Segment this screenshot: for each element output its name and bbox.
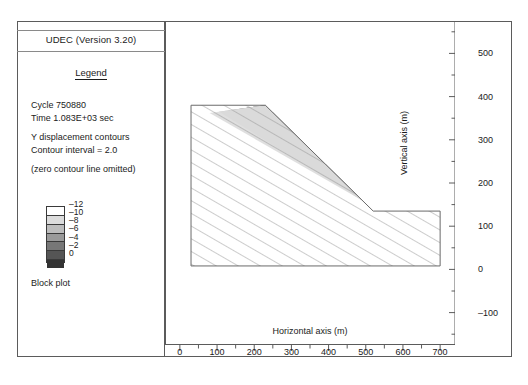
legend-heading-text: Legend <box>75 67 107 80</box>
title-rule-top <box>17 30 165 31</box>
contour-color-scale <box>46 206 65 263</box>
color-band--8 <box>47 224 64 233</box>
x-tick-0: 0 <box>177 347 182 357</box>
legend-heading: Legend <box>17 67 165 78</box>
color-band-0 <box>47 259 64 268</box>
scale-label: –8 <box>69 216 129 224</box>
y-tick-100: 100 <box>478 221 493 231</box>
contour-interval-label: Contour interval = 2.0 <box>31 144 165 157</box>
y-tick--100: –100 <box>478 308 498 318</box>
block-plot-label: Block plot <box>31 278 70 288</box>
contour-scale-labels: –12–10–8–6–4–20 <box>69 200 129 257</box>
scale-label: –6 <box>69 224 129 232</box>
x-axis-tick-labels: 0100200300400500600700 <box>165 347 455 359</box>
color-band--4 <box>47 241 64 250</box>
y-tick-400: 400 <box>478 92 493 102</box>
contour-type-label: Y displacement contours <box>31 131 165 144</box>
legend-panel: UDEC (Version 3.20) Legend Cycle 750880 … <box>17 21 165 357</box>
y-tick-500: 500 <box>478 48 493 58</box>
slope-model-figure <box>165 21 455 357</box>
app-title: UDEC (Version 3.20) <box>17 34 165 45</box>
scale-label: –4 <box>69 233 129 241</box>
zero-contour-note: (zero contour line omitted) <box>31 163 165 176</box>
x-axis-title: Horizontal axis (m) <box>165 326 455 336</box>
title-rule-bottom <box>17 51 165 52</box>
scale-label: 0 <box>69 249 129 257</box>
x-tick-600: 600 <box>395 347 410 357</box>
time-label: Time 1.083E+03 sec <box>31 112 165 125</box>
scale-label: –10 <box>69 208 129 216</box>
x-tick-500: 500 <box>358 347 373 357</box>
plot-area <box>165 21 455 357</box>
x-tick-700: 700 <box>433 347 448 357</box>
color-band--2 <box>47 250 64 259</box>
x-tick-100: 100 <box>210 347 225 357</box>
y-axis-title: Vertical axis (m) <box>399 111 409 175</box>
color-band--6 <box>47 233 64 242</box>
x-tick-300: 300 <box>284 347 299 357</box>
color-band--10 <box>47 215 64 224</box>
y-tick-300: 300 <box>478 135 493 145</box>
x-tick-200: 200 <box>247 347 262 357</box>
y-axis-tick-labels: –1000100200300400500 <box>470 21 510 345</box>
scale-label: –2 <box>69 241 129 249</box>
udec-plot-screenshot: UDEC (Version 3.20) Legend Cycle 750880 … <box>0 0 528 385</box>
cycle-label: Cycle 750880 <box>31 99 165 112</box>
color-band--12 <box>47 207 64 215</box>
x-tick-400: 400 <box>321 347 336 357</box>
legend-text-block: Cycle 750880 Time 1.083E+03 sec Y displa… <box>31 99 165 176</box>
y-tick-200: 200 <box>478 178 493 188</box>
y-tick-0: 0 <box>478 264 483 274</box>
